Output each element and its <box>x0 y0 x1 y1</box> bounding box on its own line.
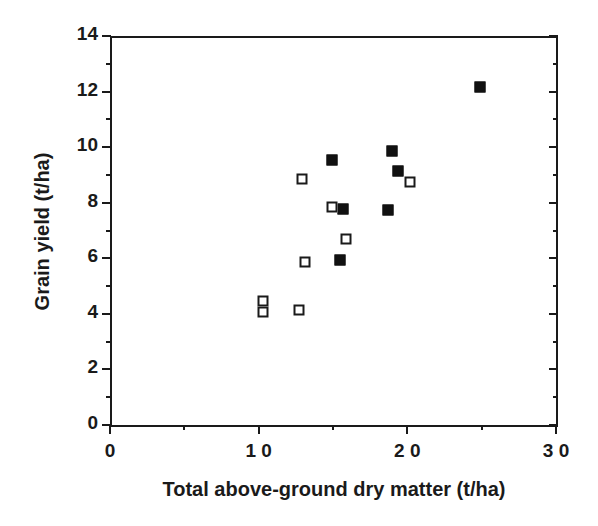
y-tick-minor-right <box>553 174 558 176</box>
y-tick-major <box>102 91 111 93</box>
data-point-filled-square <box>335 254 346 265</box>
y-tick-label: 14 <box>64 23 98 45</box>
y-tick-major <box>102 257 111 259</box>
data-point-filled-square <box>393 165 404 176</box>
y-tick-label: 4 <box>64 301 98 323</box>
y-tick-minor-right <box>553 285 558 287</box>
data-point-open-square <box>299 257 310 268</box>
data-point-filled-square <box>326 154 337 165</box>
y-tick-major <box>102 146 111 148</box>
data-point-open-square <box>341 233 352 244</box>
scatter-chart-figure: Grain yield (t/ha) Total above-ground dr… <box>0 0 598 526</box>
x-tick-major <box>555 425 557 434</box>
y-tick-minor <box>106 285 111 287</box>
y-tick-major-right <box>549 257 558 259</box>
y-tick-minor-right <box>553 396 558 398</box>
data-point-filled-square <box>383 204 394 215</box>
y-tick-minor-right <box>553 341 558 343</box>
plot-area: 02468101214 01 02 03 0 <box>110 36 558 427</box>
data-point-open-square <box>293 304 304 315</box>
y-tick-minor-right <box>553 230 558 232</box>
y-tick-major <box>102 202 111 204</box>
y-tick-major <box>102 35 111 37</box>
x-tick-label: 2 0 <box>394 440 420 462</box>
y-tick-minor <box>106 63 111 65</box>
x-axis-title: Total above-ground dry matter (t/ha) <box>110 478 558 501</box>
data-point-open-square <box>258 296 269 307</box>
y-tick-label: 10 <box>64 134 98 156</box>
y-tick-major-right <box>549 35 558 37</box>
y-tick-minor <box>106 230 111 232</box>
y-tick-label: 0 <box>64 412 98 434</box>
x-tick-minor <box>332 425 334 430</box>
y-tick-major-right <box>549 368 558 370</box>
data-point-open-square <box>296 174 307 185</box>
x-tick-label: 0 <box>105 440 116 462</box>
y-tick-major-right <box>549 91 558 93</box>
y-tick-minor-right <box>553 63 558 65</box>
y-axis-title: Grain yield (t/ha) <box>22 36 62 427</box>
y-tick-minor <box>106 174 111 176</box>
data-point-filled-square <box>475 82 486 93</box>
y-tick-major-right <box>549 202 558 204</box>
axis-line-bottom <box>110 425 558 427</box>
y-tick-major <box>102 313 111 315</box>
data-point-filled-square <box>338 203 349 214</box>
y-tick-major-right <box>549 313 558 315</box>
x-tick-label: 1 0 <box>245 440 271 462</box>
data-point-open-square <box>326 201 337 212</box>
x-tick-major <box>406 425 408 434</box>
data-point-open-square <box>258 307 269 318</box>
y-tick-major <box>102 368 111 370</box>
y-tick-major-right <box>549 146 558 148</box>
y-tick-minor <box>106 396 111 398</box>
x-tick-minor <box>481 425 483 430</box>
axis-line-top <box>110 36 558 38</box>
x-tick-label: 3 0 <box>543 440 569 462</box>
data-point-filled-square <box>387 146 398 157</box>
y-tick-label: 2 <box>64 356 98 378</box>
x-tick-major <box>109 425 111 434</box>
y-tick-label: 12 <box>64 79 98 101</box>
x-tick-major <box>258 425 260 434</box>
y-tick-minor-right <box>553 118 558 120</box>
y-tick-label: 8 <box>64 190 98 212</box>
y-tick-label: 6 <box>64 245 98 267</box>
y-tick-minor <box>106 118 111 120</box>
data-point-open-square <box>405 176 416 187</box>
y-tick-minor <box>106 341 111 343</box>
x-tick-minor <box>183 425 185 430</box>
